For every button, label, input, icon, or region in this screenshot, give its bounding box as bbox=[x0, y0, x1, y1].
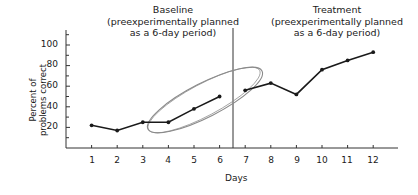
data-point bbox=[167, 120, 171, 124]
data-point bbox=[90, 123, 94, 127]
series-line bbox=[245, 52, 373, 94]
data-point bbox=[192, 107, 196, 111]
data-point bbox=[295, 93, 299, 97]
data-point bbox=[243, 88, 247, 92]
data-point bbox=[115, 129, 119, 133]
data-point bbox=[141, 120, 145, 124]
data-point bbox=[346, 59, 350, 63]
data-point bbox=[218, 95, 222, 99]
data-point bbox=[371, 50, 375, 54]
data-point bbox=[320, 68, 324, 72]
trend-ellipse bbox=[140, 56, 269, 144]
y-ticks bbox=[66, 35, 70, 138]
data-point bbox=[269, 81, 273, 85]
chart-plot-area bbox=[0, 0, 418, 195]
